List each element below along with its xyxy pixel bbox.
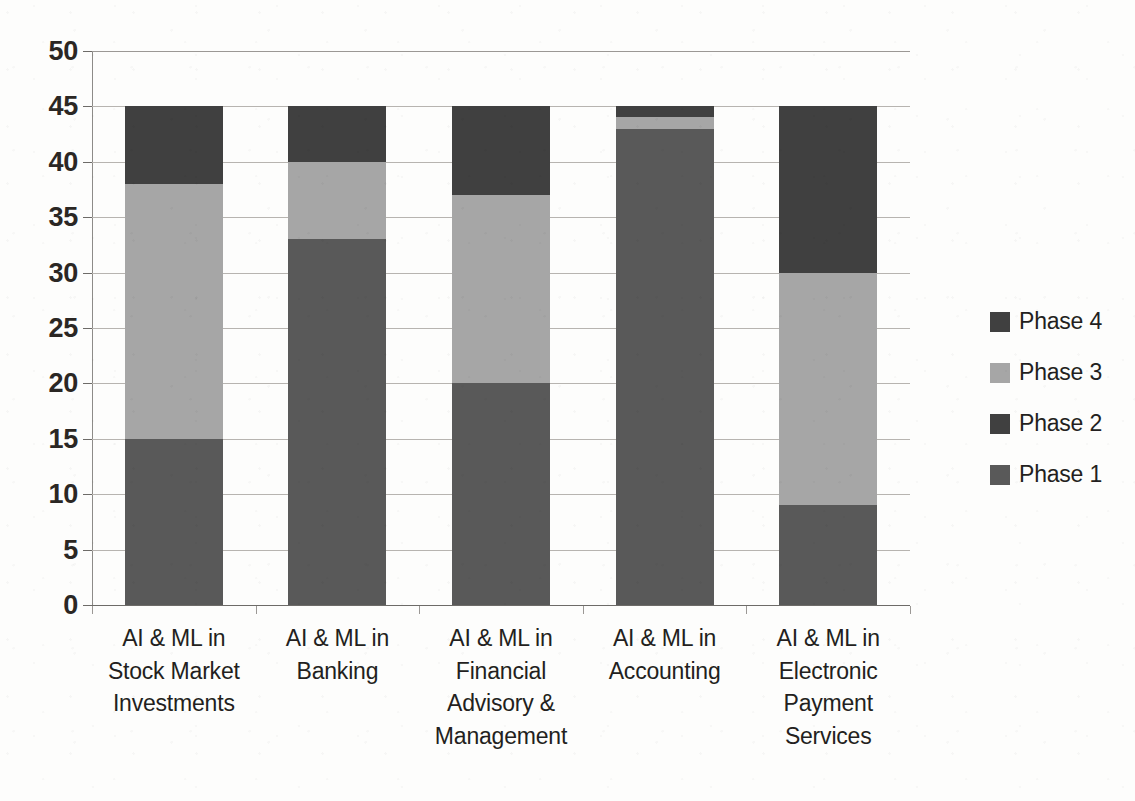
- y-axis-tickmark: [83, 605, 92, 606]
- stacked-bar[interactable]: [125, 51, 223, 605]
- legend-label: Phase 3: [1019, 361, 1102, 384]
- y-axis-tickmark: [83, 383, 92, 384]
- x-axis-category-label-line: Management: [422, 720, 580, 753]
- y-axis-tickmark: [83, 328, 92, 329]
- y-axis-tickmark: [83, 439, 92, 440]
- x-axis-category-label-line: AI & ML in: [586, 622, 744, 655]
- y-axis-tick-label: 30: [20, 259, 78, 286]
- legend-swatch-icon: [990, 312, 1010, 332]
- stacked-bar-chart: 50454035302520151050 AI & ML inStock Mar…: [0, 0, 1135, 801]
- bar-segment-phase-3[interactable]: [779, 273, 877, 506]
- x-axis-category-labels: AI & ML inStock MarketInvestmentsAI & ML…: [92, 622, 910, 797]
- legend-swatch-icon: [990, 414, 1010, 434]
- y-axis-tick-label: 50: [20, 38, 78, 65]
- stacked-bar[interactable]: [288, 51, 386, 605]
- x-axis-category-label-line: Payment: [749, 687, 907, 720]
- bar-segment-phase-1[interactable]: [288, 239, 386, 605]
- y-axis-tickmark: [83, 162, 92, 163]
- x-axis-category-label: AI & ML inFinancialAdvisory &Management: [422, 622, 580, 753]
- x-axis-line: [92, 605, 910, 606]
- y-axis-tickmark: [83, 273, 92, 274]
- x-axis-tickmark: [910, 606, 911, 614]
- x-axis-category-label-line: AI & ML in: [749, 622, 907, 655]
- x-axis-category-label: AI & ML inStock MarketInvestments: [95, 622, 253, 720]
- legend-label: Phase 1: [1019, 463, 1102, 486]
- bar-segment-phase-4[interactable]: [125, 106, 223, 184]
- bar-segment-phase-3[interactable]: [288, 162, 386, 240]
- y-axis-tick-label: 10: [20, 481, 78, 508]
- bar-segment-phase-3[interactable]: [125, 184, 223, 439]
- x-axis-category-label-line: AI & ML in: [422, 622, 580, 655]
- y-axis-tick-label: 20: [20, 370, 78, 397]
- legend-item-phase-4[interactable]: Phase 4: [990, 296, 1135, 347]
- bar-segment-phase-4[interactable]: [779, 106, 877, 272]
- bar-segment-phase-4[interactable]: [452, 106, 550, 195]
- y-axis-tick-label: 15: [20, 425, 78, 452]
- x-axis-tickmark: [256, 606, 257, 614]
- x-axis-category-label-line: Accounting: [586, 655, 744, 688]
- stacked-bar[interactable]: [779, 51, 877, 605]
- y-axis-tick-label: 5: [20, 536, 78, 563]
- bar-segment-phase-4[interactable]: [616, 106, 714, 117]
- x-axis-category-label-line: Stock Market: [95, 655, 253, 688]
- plot-area: [92, 51, 910, 606]
- y-axis-tickmark: [83, 217, 92, 218]
- legend-item-phase-2[interactable]: Phase 2: [990, 398, 1135, 449]
- x-axis-category-label-line: Advisory &: [422, 687, 580, 720]
- legend-label: Phase 2: [1019, 412, 1102, 435]
- y-axis-tick-label: 40: [20, 148, 78, 175]
- bar-segment-phase-3[interactable]: [616, 117, 714, 128]
- x-axis-tickmark: [92, 606, 93, 614]
- x-axis-tickmark: [746, 606, 747, 614]
- legend-swatch-icon: [990, 465, 1010, 485]
- x-axis-tickmark: [583, 606, 584, 614]
- x-axis-category-label-line: Banking: [259, 655, 417, 688]
- bar-segment-phase-1[interactable]: [125, 439, 223, 605]
- legend-label: Phase 4: [1019, 310, 1102, 333]
- y-axis-tick-label: 35: [20, 204, 78, 231]
- bar-segment-phase-4[interactable]: [288, 106, 386, 161]
- legend-item-phase-1[interactable]: Phase 1: [990, 449, 1135, 500]
- x-axis-category-label-line: Services: [749, 720, 907, 753]
- y-axis-tick-label: 0: [20, 592, 78, 619]
- chart-legend: Phase 4Phase 3Phase 2Phase 1: [990, 296, 1135, 500]
- stacked-bar[interactable]: [452, 51, 550, 605]
- bar-segment-phase-3[interactable]: [452, 195, 550, 383]
- legend-swatch-icon: [990, 363, 1010, 383]
- y-axis: 50454035302520151050: [16, 0, 78, 801]
- x-axis-tickmark: [419, 606, 420, 614]
- stacked-bar[interactable]: [616, 51, 714, 605]
- y-axis-tickmark: [83, 106, 92, 107]
- x-axis-category-label-line: AI & ML in: [95, 622, 253, 655]
- x-axis-category-label: AI & ML inBanking: [259, 622, 417, 687]
- x-axis-category-label-line: AI & ML in: [259, 622, 417, 655]
- y-axis-tickmark: [83, 51, 92, 52]
- x-axis-category-label-line: Investments: [95, 687, 253, 720]
- x-axis-category-label: AI & ML inAccounting: [586, 622, 744, 687]
- x-axis-category-label-line: Electronic: [749, 655, 907, 688]
- legend-item-phase-3[interactable]: Phase 3: [990, 347, 1135, 398]
- y-axis-tick-label: 25: [20, 315, 78, 342]
- bar-segment-phase-1[interactable]: [452, 383, 550, 605]
- bar-segment-phase-1[interactable]: [616, 129, 714, 605]
- x-axis-category-label-line: Financial: [422, 655, 580, 688]
- x-axis-category-label: AI & ML inElectronicPaymentServices: [749, 622, 907, 753]
- y-axis-tickmark: [83, 550, 92, 551]
- y-axis-tick-label: 45: [20, 93, 78, 120]
- bar-segment-phase-1[interactable]: [779, 505, 877, 605]
- y-axis-tickmark: [83, 494, 92, 495]
